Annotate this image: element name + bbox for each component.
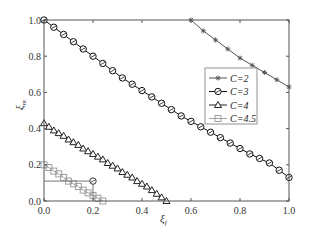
x-axis-label: ξf (160, 212, 168, 227)
y-tick-label: 0.0 (29, 196, 42, 207)
y-tick-label: 0.6 (29, 87, 42, 98)
legend-label: C=3 (230, 86, 248, 97)
y-axis-label: ξm (13, 100, 28, 110)
y-tick-label: 0.8 (29, 51, 42, 62)
legend-star-icon (216, 76, 221, 81)
x-tick-label: 0.6 (185, 205, 198, 216)
y-tick-label: 0.4 (29, 123, 42, 134)
star-marker-icon (201, 28, 206, 33)
x-tick-label: 0.0 (38, 205, 51, 216)
x-tick-label: 0.2 (87, 205, 100, 216)
line-chart: 0.00.20.40.60.81.00.00.20.40.60.81.0 ξf … (0, 0, 311, 241)
x-tick-label: 0.4 (136, 205, 149, 216)
legend-label: C=2 (230, 73, 248, 84)
y-tick-label: 1.0 (29, 15, 42, 26)
star-marker-icon (225, 46, 230, 51)
star-marker-icon (213, 37, 218, 42)
star-marker-icon (238, 56, 243, 61)
star-marker-icon (250, 63, 255, 68)
y-tick-label: 0.2 (29, 159, 42, 170)
legend-label: C=4.5 (230, 113, 256, 124)
legend: C=2C=3C=4C=4.5 (205, 68, 257, 124)
series-C-4 (41, 120, 171, 204)
x-tick-label: 0.8 (234, 205, 247, 216)
x-tick-label: 1.0 (283, 205, 296, 216)
star-marker-icon (262, 70, 267, 75)
star-marker-icon (274, 77, 279, 82)
legend-label: C=4 (230, 100, 248, 111)
